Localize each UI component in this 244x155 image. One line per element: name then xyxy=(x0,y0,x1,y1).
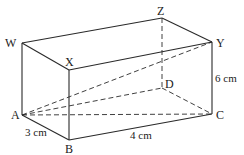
vertex-label-w: W xyxy=(5,36,17,50)
hidden-edge-dc xyxy=(162,88,212,114)
dimension-label-cy: 6 cm xyxy=(215,72,237,84)
hidden-edge-ad xyxy=(22,88,162,115)
vertex-label-x: X xyxy=(65,55,74,69)
vertex-label-d: D xyxy=(165,77,174,91)
solid-edge-zy xyxy=(162,18,212,42)
hidden-edge-ay xyxy=(22,42,212,115)
solid-edges xyxy=(22,18,212,140)
dimension-label-bc: 4 cm xyxy=(130,129,152,141)
vertex-label-b: B xyxy=(65,142,73,155)
solid-edge-wz xyxy=(22,18,162,43)
vertex-label-z: Z xyxy=(157,4,164,18)
vertex-label-a: A xyxy=(11,108,20,122)
dimension-label-ab: 3 cm xyxy=(25,126,47,138)
vertex-label-y: Y xyxy=(216,36,225,50)
solid-edge-xy xyxy=(69,42,212,70)
vertex-label-c: C xyxy=(216,108,224,122)
hidden-edges xyxy=(22,18,212,115)
hidden-edge-ac xyxy=(22,114,212,115)
solid-edge-wx xyxy=(22,43,69,70)
cuboid-diagram: W X Z Y D A B C 3 cm 4 cm 6 cm xyxy=(0,0,244,155)
